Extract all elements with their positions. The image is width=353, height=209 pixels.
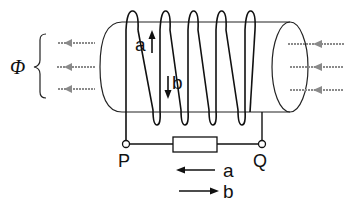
legend-arrow-a xyxy=(176,167,215,174)
flux-brace xyxy=(34,34,46,98)
right-flux-arrows xyxy=(288,40,344,94)
cylinder-core xyxy=(100,22,308,112)
coil-label-b: b xyxy=(172,72,183,93)
terminal-q-label: Q xyxy=(253,151,267,171)
solenoid-diagram: Φ xyxy=(0,0,353,209)
terminal-q xyxy=(259,141,266,148)
flux-label: Φ xyxy=(10,56,25,78)
terminal-p-label: P xyxy=(118,151,130,171)
left-flux-arrows xyxy=(57,39,95,93)
legend-arrow-b xyxy=(179,188,219,195)
resistor xyxy=(173,137,217,152)
legend-label-a: a xyxy=(223,160,234,181)
coil-label-a: a xyxy=(135,34,146,55)
terminal-p xyxy=(123,141,130,148)
coil-windings xyxy=(126,11,255,144)
legend-label-b: b xyxy=(223,181,234,202)
